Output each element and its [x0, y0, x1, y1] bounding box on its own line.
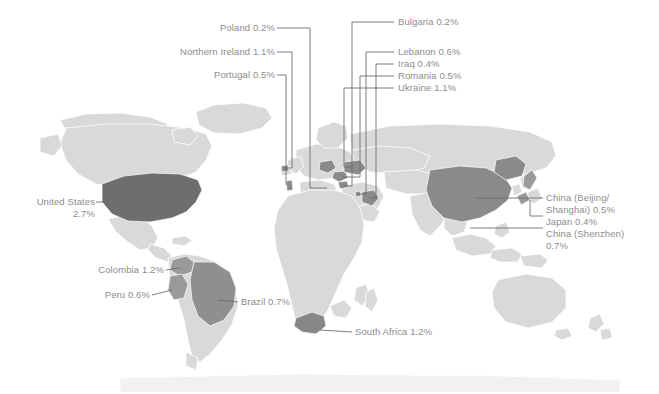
label-japan: Japan 0.4% — [546, 216, 597, 228]
world-map-chart: Poland 0.2% Northern Ireland 1.1% Portug… — [0, 0, 659, 394]
label-northern-ireland: Northern Ireland 1.1% — [140, 46, 275, 58]
label-poland: Poland 0.2% — [155, 22, 275, 34]
leader-peru — [152, 290, 172, 295]
country-northern-ireland — [281, 165, 289, 172]
landmass-base — [40, 103, 620, 392]
leader-south-africa — [320, 330, 352, 332]
label-china-beijing-shanghai: China (Beijing/ — [546, 192, 609, 204]
label-bulgaria: Bulgaria 0.2% — [398, 16, 458, 28]
label-peru: Peru 0.6% — [70, 289, 150, 301]
label-brazil: Brazil 0.7% — [241, 296, 290, 308]
label-united-states-value: 2.7% — [10, 208, 95, 220]
label-romania: Romania 0.5% — [398, 70, 462, 82]
label-united-states: United States — [10, 196, 95, 208]
label-colombia: Colombia 1.2% — [60, 264, 164, 276]
label-south-africa: South Africa 1.2% — [355, 326, 432, 338]
country-united-states — [102, 173, 202, 222]
label-iraq: Iraq 0.4% — [398, 58, 440, 70]
label-ukraine: Ukraine 1.1% — [398, 82, 456, 94]
label-china-beijing-shanghai-line2: Shanghai) 0.5% — [546, 204, 615, 216]
label-china-shenzhen-line2: 0.7% — [546, 240, 568, 252]
country-portugal — [286, 180, 293, 191]
label-portugal: Portugal 0.5% — [160, 69, 275, 81]
label-lebanon: Lebanon 0.6% — [398, 46, 460, 58]
label-china-shenzhen: China (Shenzhen) — [546, 228, 624, 240]
leader-northern-ireland — [277, 52, 292, 168]
